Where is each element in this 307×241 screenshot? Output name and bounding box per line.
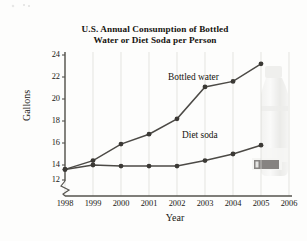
xtick-label-2006: 2006 <box>272 199 306 208</box>
series-label-diet-soda: Diet soda <box>182 130 218 140</box>
y-axis-title: Gallons <box>21 76 32 136</box>
ytick-label-22: 22 <box>38 72 60 81</box>
ytick-label-16: 16 <box>38 138 60 147</box>
chart-figure: U.S. Annual Consumption of Bottled Water… <box>0 0 307 241</box>
ytick-label-14: 14 <box>38 160 60 169</box>
ytick-label-24: 24 <box>38 50 60 59</box>
ytick-label-18: 18 <box>38 116 60 125</box>
ytick-label-20: 20 <box>38 94 60 103</box>
ytick-label-12: 12 <box>38 175 60 184</box>
x-axis-title: Year <box>60 212 290 223</box>
series-label-bottled-water: Bottled water <box>168 72 219 82</box>
